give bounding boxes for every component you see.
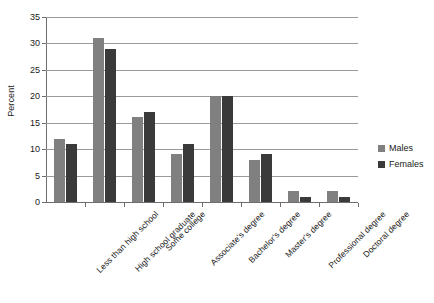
y-tick-label: 10 xyxy=(6,144,40,154)
x-tick-mark xyxy=(241,203,242,207)
y-tick-label: 5 xyxy=(6,171,40,181)
x-tick-mark xyxy=(280,203,281,207)
bar-males xyxy=(132,117,143,202)
y-tick-label: 25 xyxy=(6,65,40,75)
bar-group xyxy=(163,17,202,202)
bar-females xyxy=(339,197,350,202)
y-tick-label: 35 xyxy=(6,12,40,22)
x-tick-mark xyxy=(85,203,86,207)
x-tick-mark xyxy=(358,203,359,207)
bar-group xyxy=(241,17,280,202)
bar-males xyxy=(54,139,65,202)
bar-group xyxy=(202,17,241,202)
bar-group xyxy=(280,17,319,202)
y-tick-label: 20 xyxy=(6,91,40,101)
y-tick-mark xyxy=(42,202,46,203)
legend-swatch-icon xyxy=(378,145,385,152)
bar-group xyxy=(85,17,124,202)
x-tick-mark xyxy=(202,203,203,207)
bar-females xyxy=(222,96,233,202)
bar-chart: Percent MalesFemales 05101520253035Less … xyxy=(0,0,434,303)
bar-females xyxy=(144,112,155,202)
x-axis-label: Less than high school xyxy=(95,209,161,275)
bar-males xyxy=(249,160,260,202)
x-tick-mark xyxy=(319,203,320,207)
bar-males xyxy=(327,191,338,202)
plot-area xyxy=(46,17,358,203)
chart-legend: MalesFemales xyxy=(378,140,424,172)
bar-group xyxy=(319,17,358,202)
bar-females xyxy=(300,197,311,202)
x-tick-mark xyxy=(124,203,125,207)
y-tick-label: 0 xyxy=(6,197,40,207)
y-tick-label: 30 xyxy=(6,38,40,48)
bar-females xyxy=(105,49,116,202)
x-tick-mark xyxy=(163,203,164,207)
bar-females xyxy=(66,144,77,202)
legend-item-males: Males xyxy=(378,140,424,156)
bar-males xyxy=(288,191,299,202)
bar-males xyxy=(171,154,182,202)
bar-group xyxy=(46,17,85,202)
legend-label: Males xyxy=(389,143,413,153)
bar-females xyxy=(183,144,194,202)
bar-males xyxy=(210,96,221,202)
legend-label: Females xyxy=(389,159,424,169)
bar-males xyxy=(93,38,104,202)
bar-females xyxy=(261,154,272,202)
bar-group xyxy=(124,17,163,202)
legend-swatch-icon xyxy=(378,161,385,168)
y-tick-label: 15 xyxy=(6,118,40,128)
legend-item-females: Females xyxy=(378,156,424,172)
